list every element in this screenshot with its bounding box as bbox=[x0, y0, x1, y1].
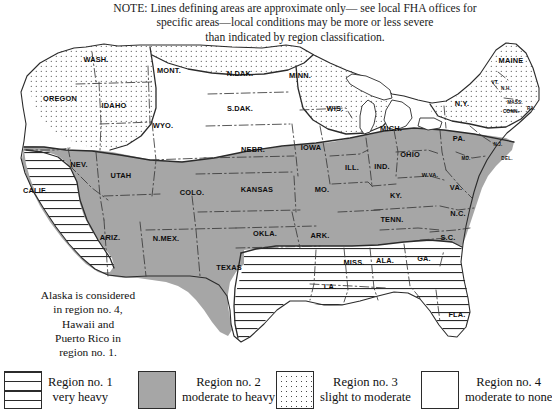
state-label: MD. bbox=[461, 156, 470, 161]
state-label: ALA. bbox=[376, 256, 394, 265]
us-region-map: WASH.OREGONIDAHOMONT.WYO.NEV.UTAHCALIF.A… bbox=[0, 0, 552, 366]
state-label: OKLA. bbox=[253, 229, 277, 238]
map-legend: Region no. 1 very heavy Region no. 2 mod… bbox=[0, 366, 552, 414]
legend-region-3-line2: slight to moderate bbox=[320, 390, 411, 405]
state-label: TEXAS bbox=[216, 263, 242, 272]
state-label: R.I. bbox=[527, 106, 535, 111]
state-label: OHIO bbox=[400, 150, 420, 159]
state-label: N.Y. bbox=[455, 99, 469, 108]
state-label: MO. bbox=[315, 185, 330, 194]
state-label: UTAH bbox=[111, 171, 132, 180]
state-label: VA. bbox=[450, 183, 462, 192]
state-label: COLO. bbox=[180, 188, 204, 197]
legend-item-region-2: Region no. 2 moderate to heavy bbox=[138, 368, 276, 412]
legend-region-3-line1: Region no. 3 bbox=[320, 375, 411, 390]
state-label: WASH. bbox=[83, 55, 108, 64]
state-label: IOWA bbox=[301, 143, 322, 152]
legend-swatch-region-4 bbox=[421, 371, 459, 409]
state-label: MISS. bbox=[343, 258, 364, 267]
state-label: MASS. bbox=[507, 100, 523, 105]
legend-label-region-1: Region no. 1 very heavy bbox=[48, 375, 113, 405]
state-label: TENN. bbox=[380, 215, 403, 224]
legend-region-1-line1: Region no. 1 bbox=[48, 375, 113, 390]
legend-swatch-region-1 bbox=[4, 371, 42, 409]
state-label: S.C. bbox=[440, 233, 455, 242]
state-label: MONT. bbox=[157, 66, 181, 75]
state-label: CALIF. bbox=[23, 186, 47, 195]
state-label: VT. bbox=[491, 80, 498, 85]
state-label: NEV. bbox=[70, 160, 87, 169]
state-label: W.VA. bbox=[422, 172, 439, 178]
state-label: N.DAK. bbox=[227, 69, 254, 78]
state-label: LA. bbox=[324, 282, 337, 291]
state-label: N.H. bbox=[501, 86, 511, 91]
region-1-gulf-southeast bbox=[234, 240, 470, 340]
legend-region-1-line2: very heavy bbox=[48, 390, 113, 405]
state-label: S.DAK. bbox=[227, 104, 253, 113]
legend-item-region-3: Region no. 3 slight to moderate bbox=[276, 368, 421, 412]
state-label: N.C. bbox=[450, 209, 466, 218]
state-label: MAINE bbox=[499, 56, 524, 65]
state-label: KANSAS bbox=[241, 185, 273, 194]
state-label: ARIZ. bbox=[100, 233, 120, 242]
territory-note-line-2: in region no. 4, bbox=[4, 302, 172, 316]
legend-label-region-2: Region no. 2 moderate to heavy bbox=[182, 375, 275, 405]
legend-label-region-4: Region no. 4 moderate to none bbox=[465, 375, 552, 405]
legend-region-4-line2: moderate to none bbox=[465, 390, 552, 405]
legend-label-region-3: Region no. 3 slight to moderate bbox=[320, 375, 411, 405]
state-label: IDAHO bbox=[102, 101, 127, 110]
territory-note-line-4: Puerto Rico in bbox=[4, 331, 172, 345]
state-label: MINN. bbox=[289, 71, 311, 80]
legend-region-2-line1: Region no. 2 bbox=[182, 375, 275, 390]
state-label: IND. bbox=[374, 162, 390, 171]
legend-region-2-line2: moderate to heavy bbox=[182, 390, 275, 405]
state-label: OREGON bbox=[43, 94, 77, 103]
territory-note-line-3: Hawaii and bbox=[4, 317, 172, 331]
state-label: WIS. bbox=[327, 104, 344, 113]
legend-swatch-region-2 bbox=[138, 371, 176, 409]
state-label: ARK. bbox=[311, 231, 330, 240]
legend-item-region-1: Region no. 1 very heavy bbox=[0, 368, 138, 412]
state-label: N.J. bbox=[493, 142, 502, 147]
state-label: WYO. bbox=[153, 121, 174, 130]
state-label: DEL. bbox=[501, 156, 512, 161]
territory-note-line-5: region no. 1. bbox=[4, 345, 172, 359]
territory-note-line-1: Alaska is considered bbox=[4, 288, 172, 302]
legend-item-region-4: Region no. 4 moderate to none bbox=[421, 368, 552, 412]
state-label: NEBR. bbox=[241, 145, 265, 154]
state-label: N.MEX. bbox=[153, 234, 180, 243]
state-label: KY. bbox=[390, 191, 402, 200]
state-label: PA. bbox=[453, 134, 465, 143]
state-label: GA. bbox=[417, 254, 431, 263]
state-label: ILL. bbox=[345, 163, 359, 172]
territory-note: Alaska is considered in region no. 4, Ha… bbox=[4, 288, 172, 360]
state-label: FLA. bbox=[448, 310, 465, 319]
legend-swatch-region-3 bbox=[276, 371, 314, 409]
legend-region-4-line1: Region no. 4 bbox=[465, 375, 552, 390]
state-label: MICH. bbox=[380, 124, 402, 133]
state-label: CONN. bbox=[503, 109, 519, 114]
